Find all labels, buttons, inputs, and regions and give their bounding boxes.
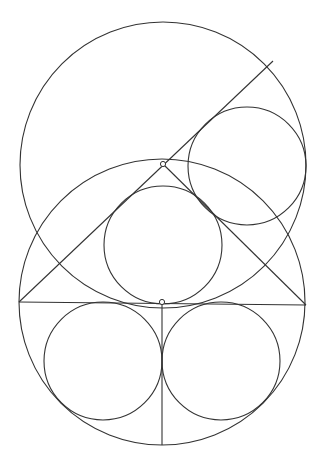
lower-left-inscribed-circle (44, 302, 162, 420)
lower-right-inscribed-circle (162, 302, 280, 420)
long-diagonal (19, 61, 273, 302)
points-group (159, 161, 165, 304)
middle-inscribed-circle (104, 186, 222, 304)
apex-point (160, 161, 165, 166)
center-point (159, 299, 164, 304)
lines-group (19, 61, 306, 445)
geometry-diagram (0, 0, 326, 461)
right-triangle-side (163, 164, 306, 305)
